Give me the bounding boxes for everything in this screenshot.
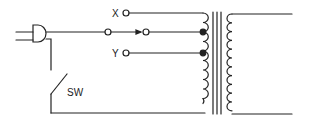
circuit-diagram: X Y SW (0, 0, 309, 123)
secondary-coil-icon (227, 14, 232, 111)
tap-dot-icon (200, 29, 206, 35)
label-y: Y (112, 48, 119, 59)
label-sw: SW (67, 87, 84, 98)
plug-icon (16, 25, 105, 70)
secondary-leads-icon (232, 14, 292, 114)
circuit-svg: X Y SW (0, 0, 309, 123)
selector-arrow-icon (105, 29, 203, 35)
primary-coil-icon (203, 13, 208, 104)
terminal-x-icon (123, 10, 203, 16)
tap-dot-icon (200, 50, 206, 56)
terminal-y-icon (123, 50, 203, 56)
label-x: X (112, 8, 119, 19)
transformer-core-icon (213, 12, 221, 114)
